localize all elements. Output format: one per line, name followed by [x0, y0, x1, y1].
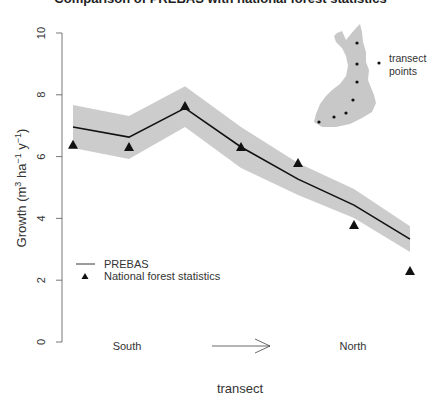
y-tick-label: 8 — [35, 92, 47, 98]
y-tick-label: 2 — [35, 277, 47, 283]
legend: PREBAS National forest statistics — [76, 258, 221, 282]
y-tick-label: 6 — [35, 154, 47, 160]
nfs-triangle-marker — [405, 266, 415, 275]
inset-label-line2: points — [389, 65, 417, 77]
chart-canvas: 0246810 Growth (m3 ha−1 y−1) PREBAS Nati… — [0, 0, 441, 406]
nfs-triangle-marker — [349, 220, 359, 229]
legend-prebas-label: PREBAS — [104, 258, 149, 270]
legend-nfs-label: National forest statistics — [104, 270, 221, 282]
y-axis: 0246810 — [35, 27, 62, 345]
finland-map-inset: transect points — [314, 24, 426, 127]
south-to-north-arrow-icon — [212, 339, 270, 353]
legend-triangle-icon — [82, 273, 89, 279]
inset-legend-dot-icon — [377, 61, 380, 64]
y-tick-label: 0 — [35, 339, 47, 345]
x-axis-label: transect — [217, 381, 264, 396]
finland-shape — [314, 24, 376, 127]
north-label: North — [340, 340, 367, 352]
y-tick-label: 4 — [35, 215, 47, 221]
y-tick-label: 10 — [35, 27, 47, 39]
south-label: South — [113, 340, 142, 352]
inset-label-line1: transect — [389, 52, 426, 64]
y-axis-label: Growth (m3 ha−1 y−1) — [13, 129, 29, 248]
